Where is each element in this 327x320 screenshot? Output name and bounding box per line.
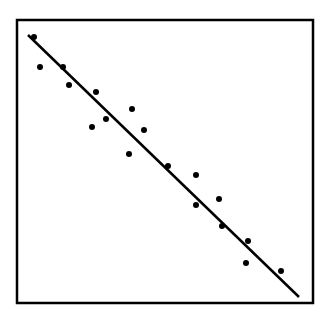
trend-line <box>28 35 299 297</box>
data-points <box>31 34 284 274</box>
data-point <box>126 151 132 157</box>
data-point <box>141 127 147 133</box>
data-point <box>165 163 171 169</box>
data-point <box>103 116 109 122</box>
plot-frame <box>17 20 313 303</box>
data-point <box>245 238 251 244</box>
data-point <box>93 89 99 95</box>
data-point <box>31 34 37 40</box>
data-point <box>66 82 72 88</box>
data-point <box>278 268 284 274</box>
data-point <box>60 64 66 70</box>
scatter-plot <box>0 0 327 320</box>
data-point <box>89 124 95 130</box>
data-point <box>193 202 199 208</box>
data-point <box>193 172 199 178</box>
data-point <box>129 106 135 112</box>
data-point <box>219 223 225 229</box>
data-point <box>216 196 222 202</box>
data-point <box>243 260 249 266</box>
data-point <box>37 64 43 70</box>
